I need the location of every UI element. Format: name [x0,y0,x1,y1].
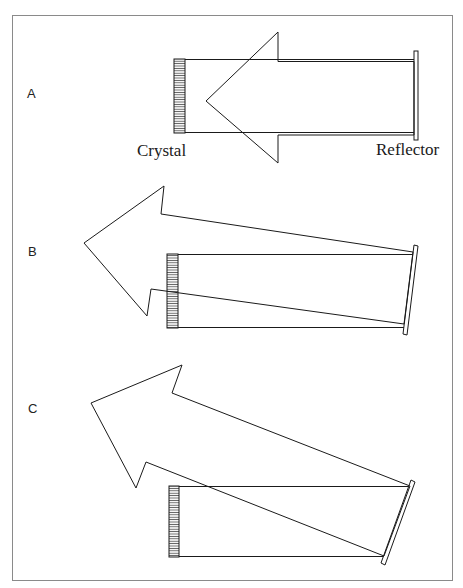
crystal-c [169,486,179,557]
panel-c: C [28,365,415,565]
crystal-reflector-diagram: A Crystal Reflector B C [0,0,463,588]
panel-a: A Crystal Reflector [27,32,440,163]
panel-b: B [28,186,418,335]
reflector-label: Reflector [376,140,440,159]
crystal-label: Crystal [137,141,186,160]
panel-label-a: A [27,86,36,101]
reflector-b [403,245,418,335]
reflector-a [414,51,418,140]
beam-arrow-c [91,365,410,556]
panel-label-c: C [28,401,37,416]
reflector-c [381,480,415,565]
crystal-a [174,59,185,133]
panel-label-b: B [28,244,37,259]
